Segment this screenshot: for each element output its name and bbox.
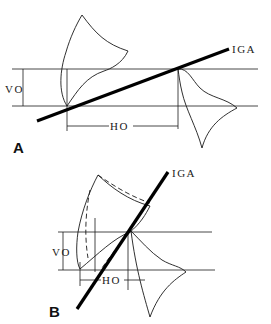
panel-b: VO HO IGA B	[49, 167, 215, 320]
panel-a-right-tooth-outline	[178, 69, 237, 148]
panel-a: VO HO IGA A	[5, 15, 258, 156]
panel-a-iga-axis	[37, 49, 229, 121]
panel-b-ho-label: HO	[102, 274, 121, 286]
panel-a-iga-label: IGA	[232, 43, 256, 55]
panel-a-vo-label: VO	[5, 83, 24, 95]
panel-b-iga-axis	[77, 172, 168, 309]
panel-a-label: A	[13, 139, 24, 156]
panel-b-iga-label: IGA	[172, 167, 196, 179]
panel-b-vo-label: VO	[52, 246, 71, 258]
panel-b-right-tooth-outline	[131, 231, 186, 317]
figure-canvas: VO HO IGA A VO HO	[0, 0, 271, 324]
panel-b-label: B	[49, 303, 60, 320]
panel-a-ho-label: HO	[110, 120, 129, 132]
